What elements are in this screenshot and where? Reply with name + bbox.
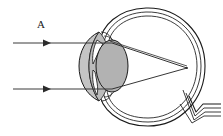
ray-bundle-label: A [37,18,45,30]
lens [96,40,128,92]
eye-diagram-figure: A [0,0,223,136]
upper-ray-arrowhead-icon [43,40,51,47]
lower-ray-arrowhead-icon [43,86,51,93]
focal-point [186,67,188,69]
eye-cross-section-diagram: A [0,0,223,136]
